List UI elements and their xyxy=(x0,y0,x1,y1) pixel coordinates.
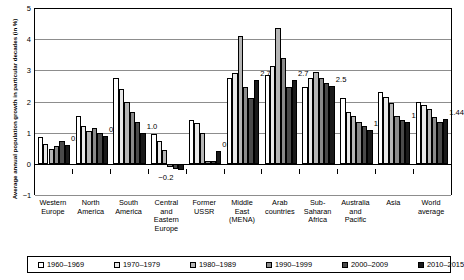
legend-swatch-icon xyxy=(342,262,348,268)
legend-label: 2010–2015 xyxy=(427,260,464,269)
bar xyxy=(216,151,221,163)
x-axis-label-line: USSR xyxy=(185,208,223,217)
y-axis-tick-label: 0 xyxy=(27,159,31,168)
legend-swatch-icon xyxy=(190,262,196,268)
bar xyxy=(178,164,183,170)
legend-label: 1980–1989 xyxy=(199,260,236,269)
y-axis-tick-label: 3 xyxy=(27,66,31,75)
bar xyxy=(254,80,259,164)
legend-label: 1960–1969 xyxy=(47,260,84,269)
x-axis-label-line: Asia xyxy=(374,199,412,208)
chart-legend: 1960–19691970–19791980–19891990–19992000… xyxy=(27,256,451,273)
x-axis-label-line: average xyxy=(412,208,450,217)
bar xyxy=(200,133,205,164)
x-axis-label: FormerUSSR xyxy=(185,199,223,216)
bar-group: −0.2 xyxy=(148,8,186,195)
value-label: −0.2 xyxy=(158,173,173,182)
x-axis-category-labels: WesternEuropeNorthAmericaSouthAmericaCen… xyxy=(34,199,452,247)
legend-swatch-icon xyxy=(266,262,272,268)
bar-group: 0.6 xyxy=(35,8,73,195)
x-axis-label-line: Europe xyxy=(147,225,185,234)
y-axis-tick-label: 2 xyxy=(27,97,31,106)
legend-label: 1970–1979 xyxy=(123,260,160,269)
bar xyxy=(292,80,297,164)
x-axis-label-line: countries xyxy=(261,208,299,217)
legend-swatch-icon xyxy=(418,262,424,268)
bar-group: 1.1 xyxy=(338,8,376,195)
x-axis-label: Arabcountries xyxy=(261,199,299,216)
bar xyxy=(65,145,70,164)
bar xyxy=(367,130,372,164)
bar-group: 0.4 xyxy=(186,8,224,195)
y-axis-tick-label: 1 xyxy=(27,128,31,137)
bar-group: 2.7 xyxy=(262,8,300,195)
bar xyxy=(162,150,167,164)
x-axis-label-line: America xyxy=(72,208,110,217)
legend-item[interactable]: 2010–2015 xyxy=(418,260,464,269)
legend-item[interactable]: 1970–1979 xyxy=(114,260,160,269)
x-axis-label: MiddleEast(MENA) xyxy=(223,199,261,225)
legend-swatch-icon xyxy=(114,262,120,268)
x-axis-label-line: Europe xyxy=(34,208,72,217)
bar xyxy=(140,133,145,164)
bar-group: 1.44 xyxy=(413,8,451,195)
legend-item[interactable]: 1960–1969 xyxy=(38,260,84,269)
x-axis-label: Asia xyxy=(374,199,412,208)
bar-group: 2.5 xyxy=(300,8,338,195)
x-axis-label: CentralandEasternEurope xyxy=(147,199,185,233)
y-axis-tick-label: 4 xyxy=(27,35,31,44)
legend-item[interactable]: 1980–1989 xyxy=(190,260,236,269)
plot-area: −10123450.60.91.0−0.20.42.72.72.51.11.35… xyxy=(34,8,452,195)
y-axis-tick-label: −1 xyxy=(23,191,31,200)
bar-group: 1.0 xyxy=(111,8,149,195)
x-axis-label: Worldaverage xyxy=(412,199,450,216)
legend-label: 2000–2009 xyxy=(351,260,388,269)
x-axis-label-line: Africa xyxy=(299,216,337,225)
bar xyxy=(405,122,410,164)
bar xyxy=(443,119,448,164)
x-axis-label-line: Pacific xyxy=(337,216,375,225)
x-axis-label: WesternEurope xyxy=(34,199,72,216)
x-axis-label-line: America xyxy=(110,208,148,217)
x-axis-label: SouthAmerica xyxy=(110,199,148,216)
legend-item[interactable]: 2000–2009 xyxy=(342,260,388,269)
y-axis-title: Average annual population growth in part… xyxy=(9,0,21,218)
y-axis-tick-label: 5 xyxy=(27,4,31,13)
x-axis-label: NorthAmerica xyxy=(72,199,110,216)
x-axis-label: AustraliaandPacific xyxy=(337,199,375,225)
bar-group: 1.35 xyxy=(375,8,413,195)
x-axis-label: Sub-SaharanAfrica xyxy=(299,199,337,225)
legend-item[interactable]: 1990–1999 xyxy=(266,260,312,269)
bar xyxy=(329,86,334,164)
x-axis-label-line: (MENA) xyxy=(223,216,261,225)
bar-group: 0.9 xyxy=(73,8,111,195)
plot-inner: −10123450.60.91.0−0.20.42.72.72.51.11.35… xyxy=(35,8,451,195)
bar xyxy=(103,136,108,164)
gridline--1 xyxy=(35,195,451,196)
legend-swatch-icon xyxy=(38,262,44,268)
bar-group: 2.7 xyxy=(224,8,262,195)
value-label: 1.44 xyxy=(449,108,464,117)
legend-label: 1990–1999 xyxy=(275,260,312,269)
